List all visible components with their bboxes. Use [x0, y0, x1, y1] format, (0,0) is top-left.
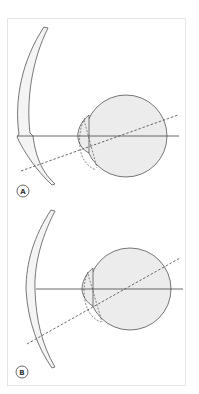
eye-lens-diagram: A B [0, 0, 199, 394]
svg-text:B: B [19, 369, 24, 377]
panel-a: A [17, 27, 179, 197]
panel-b: B [16, 210, 183, 378]
panel-label-a: A [17, 185, 29, 197]
spectacle-lens-a [17, 27, 55, 185]
svg-text:A: A [20, 188, 26, 196]
panel-label-b: B [16, 366, 28, 378]
